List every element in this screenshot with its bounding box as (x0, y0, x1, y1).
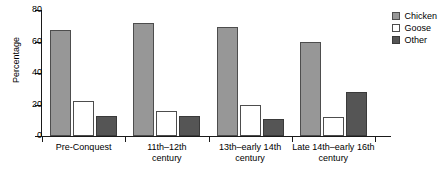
legend-swatch-other-icon (392, 36, 400, 44)
x-label-line: century (284, 153, 383, 164)
bar-goose (73, 101, 94, 136)
bar-chart: Percentage 020406080 Pre-Conquest11th–12… (0, 0, 439, 194)
x-axis-line (41, 136, 391, 137)
bar-group (300, 10, 367, 136)
bar-group (50, 10, 117, 136)
legend-swatch-chicken-icon (392, 12, 400, 20)
bar-goose (240, 105, 261, 137)
chart-legend: Chicken Goose Other (392, 10, 437, 46)
plot-area (42, 10, 375, 136)
y-tick-label: 0 (14, 131, 42, 140)
x-tick (375, 137, 376, 142)
bar-group (133, 10, 200, 136)
bar-chicken (300, 42, 321, 137)
bar-goose (323, 117, 344, 136)
legend-label-goose: Goose (404, 23, 431, 33)
legend-swatch-goose-icon (392, 24, 400, 32)
y-tick-label: 40 (14, 68, 42, 77)
bar-other (179, 116, 200, 136)
y-tick-label: 20 (14, 100, 42, 109)
bar-other (263, 119, 284, 136)
y-tick-label: 80 (14, 5, 42, 14)
bar-other (96, 116, 117, 136)
bar-chicken (217, 27, 238, 136)
bar-chicken (133, 23, 154, 136)
legend-item-chicken: Chicken (392, 10, 437, 21)
bar-goose (156, 111, 177, 136)
bar-group (217, 10, 284, 136)
y-axis-ticks: 020406080 (0, 0, 42, 194)
y-tick-label: 60 (14, 37, 42, 46)
legend-label-chicken: Chicken (404, 11, 437, 21)
legend-item-other: Other (392, 34, 437, 45)
bar-other (346, 92, 367, 136)
legend-label-other: Other (404, 35, 427, 45)
x-axis-category-label: Late 14th–early 16thcentury (284, 142, 383, 164)
bar-chicken (50, 30, 71, 136)
legend-item-goose: Goose (392, 22, 437, 33)
x-label-line: Late 14th–early 16th (284, 142, 383, 153)
